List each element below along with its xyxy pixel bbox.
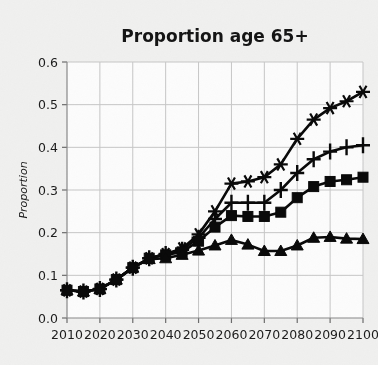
data-point-marker-square <box>342 175 352 185</box>
y-tick-label: 0.1 <box>38 268 58 283</box>
data-point-marker-square <box>292 193 302 203</box>
data-point-marker-square <box>226 211 236 221</box>
x-axis-ticks: 2010202020302040205020602070208020902100 <box>51 318 378 342</box>
y-tick-label: 0.4 <box>38 140 58 155</box>
x-tick-label: 2010 <box>51 327 83 342</box>
line-chart: Proportion age 65+ Proportion 0.00.10.20… <box>0 0 378 365</box>
x-tick-label: 2060 <box>216 327 248 342</box>
data-point-marker-square <box>325 176 335 186</box>
x-tick-label: 2040 <box>150 327 182 342</box>
data-point-marker-square <box>210 222 220 232</box>
chart-figure: Proportion age 65+ Proportion 0.00.10.20… <box>0 0 378 365</box>
data-point-marker-square <box>358 172 368 182</box>
y-tick-label: 0.5 <box>38 97 58 112</box>
x-tick-label: 2030 <box>117 327 149 342</box>
y-tick-label: 0.3 <box>38 183 58 198</box>
x-tick-label: 2090 <box>314 327 346 342</box>
data-point-marker-square <box>276 207 286 217</box>
y-tick-label: 0.2 <box>38 225 58 240</box>
x-tick-label: 2020 <box>84 327 116 342</box>
data-point-marker-square <box>309 182 319 192</box>
y-axis-label: Proportion <box>17 161 30 218</box>
chart-title: Proportion age 65+ <box>121 26 308 46</box>
y-tick-label: 0.6 <box>38 55 58 70</box>
data-point-marker-square <box>259 211 269 221</box>
x-tick-label: 2100 <box>347 327 378 342</box>
x-tick-label: 2050 <box>183 327 215 342</box>
x-tick-label: 2070 <box>248 327 280 342</box>
x-tick-label: 2080 <box>281 327 313 342</box>
data-point-marker-square <box>243 211 253 221</box>
y-tick-label: 0.0 <box>38 311 58 326</box>
